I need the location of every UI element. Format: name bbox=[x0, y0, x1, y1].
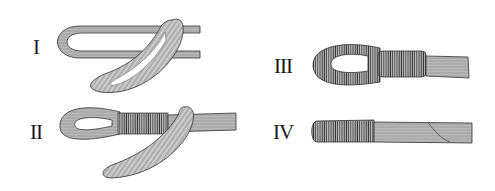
panel-3-rope bbox=[313, 45, 469, 85]
panel-label-1: I bbox=[33, 37, 39, 58]
panel-2-rope bbox=[60, 107, 236, 178]
rope-illustration bbox=[0, 0, 495, 191]
panel-label-2: II bbox=[30, 122, 42, 143]
illustration: I II III IV bbox=[0, 0, 495, 191]
panel-label-4: IV bbox=[273, 122, 293, 143]
panel-1-rope bbox=[58, 19, 201, 92]
panel-label-3: III bbox=[274, 56, 292, 77]
panel-4-rope bbox=[312, 120, 472, 143]
